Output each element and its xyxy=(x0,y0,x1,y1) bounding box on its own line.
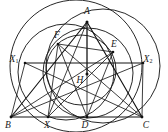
dot-b xyxy=(10,116,13,119)
label-x: X xyxy=(43,120,51,130)
geometry-figure: A B C D E F H X X1 X2 xyxy=(0,0,168,132)
label-f: F xyxy=(53,30,60,40)
dot-f xyxy=(57,43,60,46)
dot-a xyxy=(86,21,89,24)
label-b: B xyxy=(5,120,11,130)
dot-e xyxy=(112,51,115,54)
segment-x2-b xyxy=(11,63,143,117)
label-d: D xyxy=(81,120,89,130)
dot-x1 xyxy=(24,62,27,65)
geometry-canvas: A B C D E F H X X1 X2 xyxy=(0,0,168,132)
circumcircle-abc xyxy=(10,0,142,132)
label-h: H xyxy=(76,75,85,85)
dot-d xyxy=(86,116,89,119)
label-a: A xyxy=(83,6,90,16)
label-x2: X2 xyxy=(143,54,153,64)
chord-group xyxy=(11,63,143,117)
dot-c xyxy=(141,116,144,119)
altitude-be xyxy=(11,52,113,117)
label-c: C xyxy=(143,120,150,130)
dot-h xyxy=(86,73,89,76)
side-ab xyxy=(11,22,87,117)
dot-x xyxy=(47,116,50,119)
label-e: E xyxy=(110,39,117,49)
label-x1: X1 xyxy=(9,54,19,64)
